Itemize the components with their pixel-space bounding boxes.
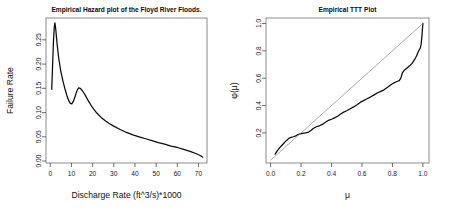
ttt-plot-x-tick-label: 0.8 [388,170,397,177]
hazard-plot-y-tick-label: 0.20 [35,57,42,70]
hazard-plot-x-tick-label: 0 [48,170,52,177]
ttt-plot-x-tick-label: 0.6 [357,170,366,177]
hazard-plot-x-tick-label: 60 [174,170,182,177]
ttt-plot-svg: Empirical TTT Plot0.00.20.40.60.81.00.20… [225,0,450,213]
hazard-plot-x-tick-label: 50 [152,170,160,177]
hazard-plot-x-tick-label: 30 [110,170,118,177]
ttt-plot-title: Empirical TTT Plot [319,6,378,14]
hazard-plot-y-tick-label: 0.25 [35,33,42,46]
hazard-plot-y-tick-label: 0.00 [35,154,42,167]
ttt-plot-x-axis-label: μ [345,190,350,200]
ttt-plot-x-tick-label: 1.0 [418,170,427,177]
figure-container: Empirical Hazard plot of the Floyd River… [0,0,450,213]
hazard-plot-x-tick-label: 20 [89,170,97,177]
hazard-plot-y-tick-label: 0.15 [35,82,42,95]
hazard-plot-y-tick-label: 0.05 [35,130,42,143]
ttt-plot-x-tick-label: 0.2 [296,170,305,177]
hazard-plot-series-empirical-hazard [52,23,203,157]
ttt-plot-y-tick-label: 0.6 [255,73,262,82]
ttt-plot-y-tick-label: 0.8 [255,46,262,55]
hazard-plot-y-tick-label: 0.10 [35,106,42,119]
hazard-plot-x-tick-label: 70 [195,170,203,177]
ttt-plot-x-tick-label: 0.0 [266,170,275,177]
hazard-plot-svg: Empirical Hazard plot of the Floyd River… [0,0,225,213]
hazard-plot-y-axis-label: Failure Rate [5,67,15,114]
ttt-plot-y-tick-label: 1.0 [255,19,262,28]
hazard-plot-panel: Empirical Hazard plot of the Floyd River… [0,0,225,213]
ttt-plot-panel: Empirical TTT Plot0.00.20.40.60.81.00.20… [225,0,450,213]
ttt-plot-y-axis-label: φ(μ) [229,82,239,98]
hazard-plot-x-tick-label: 40 [131,170,139,177]
hazard-plot-title: Empirical Hazard plot of the Floyd River… [51,6,201,14]
hazard-plot-x-tick-label: 10 [68,170,76,177]
hazard-plot-plot-frame [46,18,207,163]
hazard-plot-x-axis-label: Discharge Rate (ft^3/s)*1000 [71,190,181,200]
ttt-plot-x-tick-label: 0.4 [327,170,336,177]
ttt-plot-y-tick-label: 0.4 [255,101,262,110]
ttt-plot-series-45-degree-reference-line [271,23,423,160]
ttt-plot-y-tick-label: 0.2 [255,128,262,137]
